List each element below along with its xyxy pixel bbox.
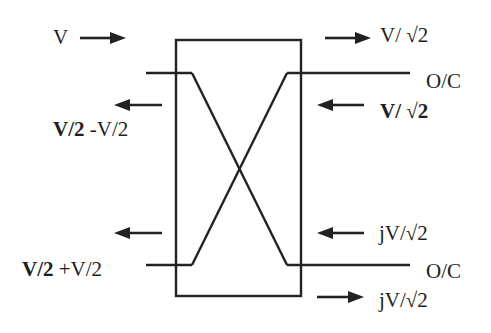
coupler-diagram: V V/2 -V/2 V/2 +V/2 V/ √2 O/C V/ √2 jV/√… [0, 0, 491, 333]
arrow-right-icon-input [80, 32, 126, 44]
label-port-bottom-oc: O/C [426, 259, 461, 283]
label-right-top-reflected: V/ √2 [380, 99, 428, 123]
label-right-bottom-output: jV/√2 [378, 288, 428, 312]
arrow-left-icon-top-return [114, 99, 162, 111]
label-left-bottom-return-rest: +V/2 [54, 257, 103, 281]
label-input-v: V [53, 25, 68, 49]
arrow-right-icon-bottom-output [317, 291, 364, 303]
label-left-top-return-rest: -V/2 [85, 117, 129, 141]
label-right-bottom-reflected: jV/√2 [378, 221, 428, 245]
label-port-top-oc: O/C [426, 69, 461, 93]
arrow-right-icon-top-output [325, 32, 371, 44]
arrow-left-icon-bottom-return [114, 227, 162, 239]
arrow-left-icon-top-reflected [317, 99, 364, 111]
label-left-top-return: V/2 -V/2 [53, 117, 128, 141]
label-left-bottom-return-bold: V/2 [22, 257, 54, 281]
label-left-bottom-return: V/2 +V/2 [22, 257, 102, 281]
label-right-top-output: V/ √2 [380, 23, 428, 47]
arrow-left-icon-bottom-reflected [317, 227, 364, 239]
label-left-top-return-bold: V/2 [53, 117, 85, 141]
